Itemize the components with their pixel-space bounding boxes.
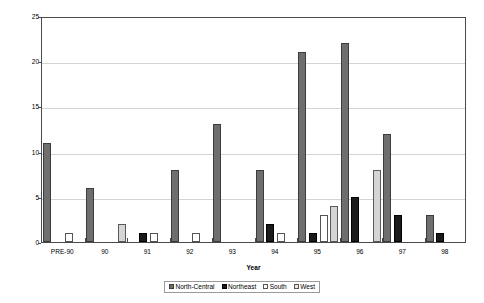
y-tick-label: 20	[9, 58, 39, 65]
y-tick-mark	[38, 153, 41, 154]
y-tick-label: 10	[9, 149, 39, 156]
legend-entry: Northeast	[222, 283, 257, 290]
legend-label: Northeast	[228, 283, 256, 290]
x-tick-divider	[297, 238, 298, 242]
bar-group	[85, 18, 128, 242]
bar	[266, 224, 274, 242]
x-tick-label: 93	[211, 248, 254, 255]
legend-label: South	[270, 283, 287, 290]
bar-group	[212, 18, 255, 242]
legend-swatch-icon	[222, 284, 227, 289]
bar	[171, 170, 179, 242]
bar	[298, 52, 306, 242]
bar-group	[297, 18, 340, 242]
legend-swatch-icon	[294, 284, 299, 289]
bar	[277, 233, 285, 242]
legend-swatch-icon	[169, 284, 174, 289]
bar-group	[340, 18, 383, 242]
x-tick-label: 92	[169, 248, 212, 255]
bar	[150, 233, 158, 242]
x-tick-divider	[170, 238, 171, 242]
bar-group	[170, 18, 213, 242]
plot-area	[41, 17, 466, 243]
bar	[320, 215, 328, 242]
x-tick-divider	[340, 238, 341, 242]
x-tick-label: 91	[126, 248, 169, 255]
x-tick-divider	[425, 238, 426, 242]
x-tick-divider	[85, 238, 86, 242]
bar	[65, 233, 73, 242]
legend-swatch-icon	[263, 284, 268, 289]
bar	[394, 215, 402, 242]
x-tick-divider	[127, 238, 128, 242]
bar	[43, 143, 51, 242]
legend-entry: North-Central	[169, 283, 215, 290]
y-tick-mark	[38, 243, 41, 244]
y-tick-mark	[38, 17, 41, 18]
bar	[373, 170, 381, 242]
x-tick-label: 96	[339, 248, 382, 255]
x-tick-label: 95	[296, 248, 339, 255]
bar	[309, 233, 317, 242]
bar	[256, 170, 264, 242]
x-tick-label: 98	[424, 248, 467, 255]
x-tick-label: 94	[254, 248, 297, 255]
x-axis-title: Year	[41, 264, 466, 271]
bar-group	[42, 18, 85, 242]
y-tick-label: 0	[9, 239, 39, 246]
x-tick-label: PRE-90	[41, 248, 84, 255]
x-tick-label: 97	[381, 248, 424, 255]
x-tick-divider	[255, 238, 256, 242]
bar	[341, 43, 349, 242]
bar-group	[425, 18, 468, 242]
bar	[330, 206, 338, 242]
x-tick-divider	[212, 238, 213, 242]
bar	[351, 197, 359, 242]
legend-entry: West	[294, 283, 315, 290]
bars-layer	[42, 18, 465, 242]
y-tick-mark	[38, 62, 41, 63]
x-tick-divider	[382, 238, 383, 242]
x-tick-label: 90	[84, 248, 127, 255]
legend-entry: South	[263, 283, 287, 290]
y-tick-label: 5	[9, 194, 39, 201]
bar	[139, 233, 147, 242]
legend-label: West	[300, 283, 315, 290]
legend-label: North-Central	[176, 283, 215, 290]
y-tick-label: 25	[9, 13, 39, 20]
y-tick-mark	[38, 198, 41, 199]
y-tick-label: 15	[9, 103, 39, 110]
bar-group	[255, 18, 298, 242]
bar	[213, 124, 221, 242]
bar	[436, 233, 444, 242]
legend-box: North-CentralNortheastSouthWest	[164, 281, 320, 293]
bar	[118, 224, 126, 242]
legend: North-CentralNortheastSouthWest	[0, 281, 484, 293]
bar-chart-figure: Number Enacted 0510152025 PRE-9090919293…	[0, 0, 484, 303]
bar	[383, 134, 391, 242]
bar	[86, 188, 94, 242]
bar	[192, 233, 200, 242]
bar-group	[127, 18, 170, 242]
bar-group	[382, 18, 425, 242]
bar	[426, 215, 434, 242]
y-tick-mark	[38, 107, 41, 108]
